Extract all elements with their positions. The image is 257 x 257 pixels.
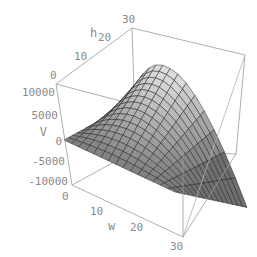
w-tick: 20 [130,221,143,234]
v-axis: 10000 5000 0 -5000 -10000 V [22,86,68,188]
h-tick: 20 [98,31,111,44]
v-tick: -5000 [32,155,65,168]
v-tick: -10000 [28,175,68,188]
w-axis-label: w [108,219,116,233]
v-tick: 0 [55,135,62,148]
w-axis: 0 10 20 30 w [62,190,183,253]
w-tick: 30 [170,240,183,253]
h-axis-label: h [90,26,97,40]
w-tick: 0 [62,190,69,203]
surface-mesh [64,65,247,208]
h-tick: 0 [50,69,57,82]
h-axis: 0 10 20 30 h [50,13,135,82]
w-tick: 10 [90,205,103,218]
surface-plot: 0 10 20 30 h 10000 5000 0 -5000 -10000 V… [0,0,257,257]
v-tick: 10000 [22,86,55,99]
h-tick: 30 [122,13,135,26]
h-tick: 10 [74,50,87,63]
v-tick: 5000 [32,109,59,122]
v-axis-label: V [40,125,47,139]
